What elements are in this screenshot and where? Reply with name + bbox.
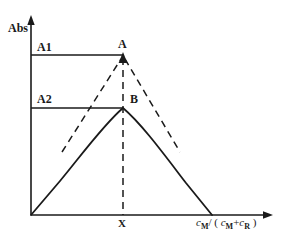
x-axis-tick-label: X <box>118 218 126 229</box>
apex-arrowhead <box>119 52 128 63</box>
x-axis-arrowhead <box>263 211 273 218</box>
measured-absorbance-curve <box>31 108 212 215</box>
y-axis-arrowhead <box>27 15 34 25</box>
y-axis <box>27 15 34 215</box>
continuous-variation-plot <box>0 0 286 242</box>
x-label-close-paren: ) <box>250 216 256 228</box>
x-label-open-paren: ( <box>212 216 221 228</box>
x-label-sub2: M <box>226 222 234 231</box>
point-label-b: B <box>130 93 138 105</box>
y-axis-label: Abs <box>8 22 28 34</box>
level-label-a2: A2 <box>37 93 52 105</box>
x-axis-label: cM/ ( cM+cR ) <box>196 217 256 231</box>
job-plot-figure: Abs A1 A2 A B X cM/ ( cM+cR ) <box>0 0 286 242</box>
level-label-a1: A1 <box>37 41 52 53</box>
point-label-a: A <box>118 38 127 50</box>
left-tangent-extrapolation <box>62 59 121 152</box>
